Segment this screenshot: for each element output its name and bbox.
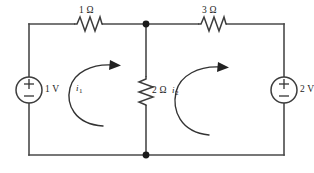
resistor-r1-symbol (74, 17, 103, 31)
mesh-current-2-label: i2 (172, 86, 178, 95)
mesh-current-arc-1 (69, 65, 112, 126)
voltage-source-left-label: 1 V (45, 85, 59, 95)
mesh-current-2-subscript: 2 (175, 89, 179, 97)
circuit-diagram-canvas: 1 Ω 3 Ω 2 Ω 1 V 2 V i1 i2 (0, 0, 314, 173)
resistor-r3-symbol (198, 17, 227, 31)
mesh-current-1-label: i1 (76, 84, 82, 93)
mesh-current-1-subscript: 1 (79, 87, 83, 95)
resistor-r2-label: 2 Ω (152, 86, 167, 96)
resistor-r3-label: 3 Ω (202, 6, 217, 16)
node-dot-bottom (143, 152, 150, 159)
mesh-current-arrow-2 (217, 62, 229, 72)
node-dot-top (143, 21, 150, 28)
mesh-current-arc-2 (175, 67, 220, 135)
mesh-current-arrow-1 (109, 60, 121, 70)
voltage-source-right-label: 2 V (300, 85, 314, 95)
resistor-r2-symbol (139, 76, 153, 106)
resistor-r1-label: 1 Ω (79, 6, 94, 16)
